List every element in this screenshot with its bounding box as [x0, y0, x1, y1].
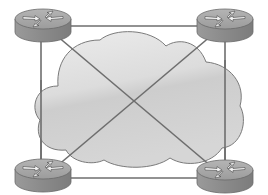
router-top-left-icon[interactable]	[15, 9, 71, 42]
router-top-right-icon[interactable]	[197, 9, 253, 42]
router-bottom-right-icon[interactable]	[197, 160, 253, 193]
network-diagram	[0, 0, 268, 195]
network-cloud-icon	[35, 32, 244, 168]
router-bottom-left-icon[interactable]	[15, 159, 71, 192]
